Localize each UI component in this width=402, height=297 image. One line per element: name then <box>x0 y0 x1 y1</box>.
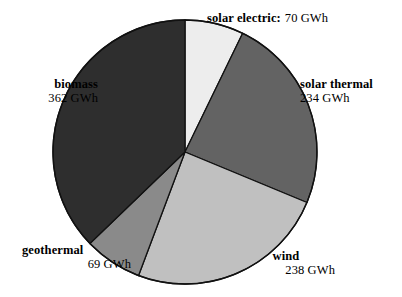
pie-label-geothermal-value: 69 GWh <box>0 257 131 271</box>
pie-label-wind-category: wind <box>243 249 335 263</box>
pie-chart: solar electric: 70 GWh solar thermal 234… <box>0 0 402 297</box>
pie-label-solar-thermal-value: 234 GWh <box>300 91 373 105</box>
pie-label-biomass: biomass 362 GWh <box>0 77 98 105</box>
pie-label-solar-electric-value: 70 GWh <box>285 11 328 25</box>
pie-label-geothermal-category: geothermal <box>0 243 131 257</box>
pie-label-geothermal: geothermal 69 GWh <box>0 243 131 271</box>
pie-label-biomass-value: 362 GWh <box>0 91 98 105</box>
pie-label-wind-value: 238 GWh <box>243 263 335 277</box>
pie-label-solar-electric: solar electric: 70 GWh <box>207 8 328 26</box>
pie-label-solar-thermal: solar thermal 234 GWh <box>300 77 373 105</box>
pie-label-wind: wind 238 GWh <box>243 249 335 277</box>
pie-label-biomass-category: biomass <box>0 77 98 91</box>
pie-label-solar-thermal-category: solar thermal <box>300 77 373 91</box>
pie-label-solar-electric-category: solar electric: <box>207 11 281 25</box>
